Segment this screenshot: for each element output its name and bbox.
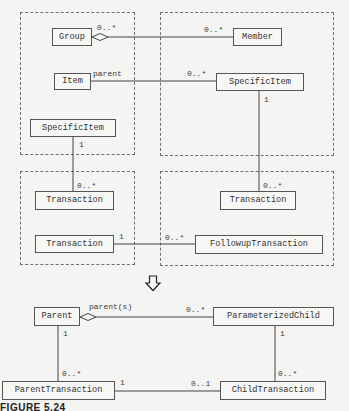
class-member: Member <box>233 28 282 46</box>
mult-specific-item-left-down: 1 <box>79 141 84 149</box>
mult-group: 0..* <box>97 24 116 32</box>
mult-child-transaction-left: 0..1 <box>191 380 210 388</box>
class-transaction-left-bottom: Transaction <box>35 235 114 253</box>
class-transaction-left-top: Transaction <box>35 191 114 210</box>
class-child-transaction: ChildTransaction <box>220 381 326 400</box>
mult-transaction-right: 0..* <box>263 182 282 190</box>
aggregation-diamond-icon <box>80 314 96 321</box>
mult-transaction-left: 0..* <box>77 182 96 190</box>
class-transaction-right: Transaction <box>220 191 296 210</box>
class-parameterized-child: ParameterizedChild <box>213 307 334 326</box>
mult-specific-item-right-down: 1 <box>264 96 269 104</box>
uml-diagram: Group Member Item SpecificItem SpecificI… <box>0 0 349 411</box>
mult-specific-item-right-in: 0..* <box>187 70 206 78</box>
role-parents: parent(s) <box>89 303 132 311</box>
mult-member: 0..* <box>204 26 223 34</box>
class-followup-transaction: FollowupTransaction <box>195 235 323 254</box>
mult-parent-transaction-up: 0..* <box>62 370 81 378</box>
down-arrow-icon <box>146 276 160 291</box>
class-item: Item <box>54 73 91 90</box>
role-item-parent: parent <box>93 70 122 78</box>
class-specific-item-left: SpecificItem <box>30 119 116 137</box>
mult-followup: 0..* <box>165 234 184 242</box>
mult-parameterized-child-down: 1 <box>280 330 285 338</box>
class-parent-transaction: ParentTransaction <box>2 381 115 400</box>
mult-child-transaction-up: 0..* <box>278 370 297 378</box>
class-group: Group <box>52 28 92 46</box>
mult-parameterized-child: 0..* <box>186 306 205 314</box>
class-parent: Parent <box>34 307 80 326</box>
class-specific-item-right: SpecificItem <box>216 73 304 91</box>
mult-parent-transaction-right: 1 <box>120 379 125 387</box>
aggregation-diamond-icon <box>92 34 108 41</box>
mult-transaction-bottom: 1 <box>119 233 124 241</box>
mult-parent-down: 1 <box>63 330 68 338</box>
figure-caption: FIGURE 5.24 <box>0 403 66 411</box>
